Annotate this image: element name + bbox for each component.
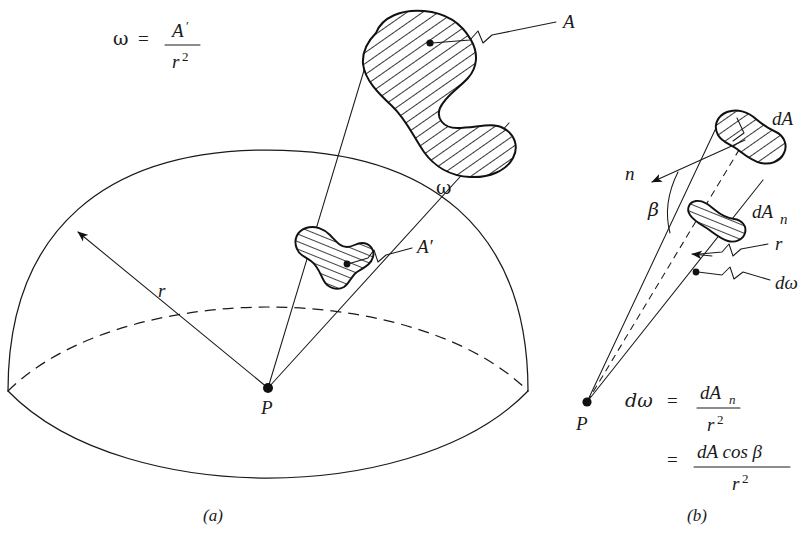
area-dA-label: dA: [772, 108, 794, 129]
omega-formula: ω = A ′ r 2: [113, 18, 200, 72]
equation-1-numerator-sub: n: [729, 392, 736, 407]
beta-angle-arc: [668, 172, 678, 233]
panel-b-caption: (b): [687, 506, 707, 525]
panel-a: r ω A A′ P ω = A ′ r 2: [8, 11, 575, 525]
equation-1: dω = dA n r 2: [625, 382, 740, 435]
area-dAn-label-sub: n: [780, 211, 788, 227]
radius-arrow-line: [78, 232, 268, 388]
point-P-marker-a: [263, 383, 273, 393]
omega-formula-numerator: A: [170, 20, 184, 41]
normal-vector-label: n: [625, 163, 635, 184]
cone-edge-left-a: [268, 34, 375, 388]
equation-2-denominator-exponent: 2: [742, 471, 749, 486]
omega-formula-equals: =: [138, 28, 149, 49]
point-P-label-a: P: [260, 397, 273, 418]
equation-2-numerator: dA cos β: [697, 441, 763, 462]
omega-formula-symbol: ω: [113, 27, 129, 49]
beta-angle-label: β: [647, 198, 659, 220]
radius-indicator-a: r: [78, 232, 268, 388]
normal-vector-arrow: [652, 140, 745, 182]
area-dAn-region: [688, 201, 745, 242]
area-A-prime-region: [295, 227, 373, 289]
equation-2: = dA cos β r 2: [667, 441, 790, 494]
panel-b: n β dA dA n r dω P dω: [575, 108, 798, 525]
panel-a-caption: (a): [203, 506, 223, 525]
solid-angle-figure: r ω A A′ P ω = A ′ r 2: [0, 0, 809, 541]
point-P-label-b: P: [575, 413, 588, 434]
area-A-prime-label: A′: [415, 236, 434, 257]
point-P-marker-b: [582, 397, 591, 406]
solid-angle-label-a: ω: [436, 176, 452, 198]
equation-1-equals: =: [667, 390, 678, 411]
solid-angle-indicator-b: dω: [693, 267, 798, 293]
area-A-label: A: [561, 11, 575, 32]
equation-1-lhs: dω: [625, 389, 653, 411]
cone-axis-dashed-b: [587, 140, 745, 402]
equation-2-denominator: r: [732, 473, 740, 494]
hemisphere-equator-dashed: [8, 307, 528, 391]
figure-canvas: r ω A A′ P ω = A ′ r 2: [0, 0, 809, 541]
equation-1-numerator: dA: [700, 382, 722, 403]
omega-formula-denominator: r: [172, 51, 180, 72]
equation-2-equals: =: [667, 449, 678, 470]
equation-1-denominator: r: [707, 414, 715, 435]
solid-angle-leader-line-b: [698, 267, 770, 280]
solid-angle-label-b-text: dω: [775, 272, 798, 293]
omega-formula-denominator-exponent: 2: [182, 49, 189, 64]
area-dAn-label: dA: [752, 201, 774, 222]
solid-angle-label-b: dω: [775, 272, 798, 293]
area-dAn-label-group: dA n: [752, 201, 788, 227]
equation-1-denominator-exponent: 2: [717, 412, 724, 427]
omega-formula-numerator-prime: ′: [186, 18, 189, 33]
radius-label-b: r: [775, 233, 783, 254]
cone-edge-left-b: [587, 128, 716, 402]
radius-label-a: r: [158, 280, 166, 301]
cone-edge-right-b: [587, 180, 763, 402]
area-A-region: [363, 11, 516, 177]
